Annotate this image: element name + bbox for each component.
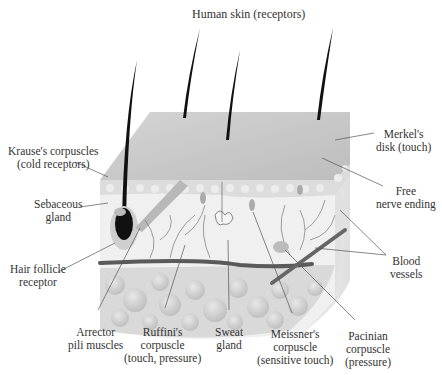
label-pacinian-line3: (pressure): [345, 356, 391, 369]
label-sweat-line2: gland: [215, 339, 243, 352]
label-krause-corpuscles: Krause's corpuscles (cold receptors): [8, 145, 99, 171]
meissner-corpuscle: [249, 199, 255, 211]
label-ruffini-line3: (touch, pressure): [124, 352, 201, 365]
label-ruffini-line2: corpuscle: [124, 339, 201, 352]
figure-title: Human skin (receptors): [192, 8, 305, 21]
label-pacinian-corpuscle: Pacinian corpuscle (pressure): [345, 330, 391, 369]
label-merkel-disk: Merkel's disk (touch): [376, 128, 431, 154]
ruffini-corpuscle: [200, 192, 206, 204]
label-meissner-line3: (sensitive touch): [257, 354, 333, 367]
label-blood-vessels-line1: Blood: [390, 255, 423, 268]
label-sweat-line1: Sweat: [215, 326, 243, 339]
label-sebaceous-gland: Sebaceous gland: [34, 198, 83, 224]
label-merkel-line2: disk (touch): [376, 141, 431, 154]
epidermis-surface: [100, 112, 350, 198]
label-free-nerve-line2: nerve ending: [376, 198, 436, 211]
label-pacinian-line1: Pacinian: [345, 330, 391, 343]
label-sweat-gland: Sweat gland: [215, 326, 243, 352]
label-free-nerve-line1: Free: [376, 185, 436, 198]
label-krause-line2: (cold receptors): [8, 158, 99, 171]
label-sebaceous-line1: Sebaceous: [34, 198, 83, 211]
label-free-nerve-ending: Free nerve ending: [376, 185, 436, 211]
label-merkel-line1: Merkel's: [376, 128, 431, 141]
label-meissner-line2: corpuscle: [257, 341, 333, 354]
label-krause-line1: Krause's corpuscles: [8, 145, 99, 158]
label-arrector-line2: pili muscles: [68, 339, 123, 352]
label-sebaceous-line2: gland: [34, 211, 83, 224]
label-hair-follicle-line2: receptor: [10, 276, 66, 289]
merkel-disk: [297, 185, 303, 195]
label-hair-follicle-line1: Hair follicle: [10, 263, 66, 276]
label-ruffini-line1: Ruffini's: [124, 326, 201, 339]
label-ruffini-corpuscle: Ruffini's corpuscle (touch, pressure): [124, 326, 201, 365]
label-blood-vessels-line2: vessels: [390, 268, 423, 281]
label-meissner-line1: Meissner's: [257, 328, 333, 341]
label-arrector-line1: Arrector: [68, 326, 123, 339]
label-arrector-pili: Arrector pili muscles: [68, 326, 123, 352]
label-meissner-corpuscle: Meissner's corpuscle (sensitive touch): [257, 328, 333, 367]
label-pacinian-line2: corpuscle: [345, 343, 391, 356]
label-hair-follicle-receptor: Hair follicle receptor: [10, 263, 66, 289]
label-blood-vessels: Blood vessels: [390, 255, 423, 281]
